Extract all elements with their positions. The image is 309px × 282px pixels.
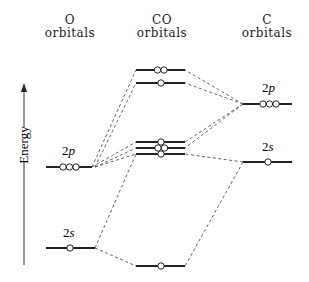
energy-axis-label: Energy <box>16 126 31 164</box>
o-2s-label: 2s <box>63 225 75 240</box>
c-2p-level: 2p <box>243 80 292 107</box>
co-cluster-levels <box>136 139 185 157</box>
co-top-level <box>136 67 185 73</box>
correlation-lines <box>92 70 243 266</box>
c-2s-label: 2s <box>262 139 274 154</box>
o-2p-label: 2p <box>62 143 76 158</box>
energy-axis: Energy <box>16 83 31 265</box>
c-2p-label: 2p <box>262 80 276 95</box>
co-second-level <box>136 80 185 86</box>
o-2p-level: 2p <box>46 143 92 170</box>
o-2s-level: 2s <box>46 225 95 251</box>
c-2s-level: 2s <box>243 139 292 165</box>
co-bottom-level <box>136 263 185 269</box>
mo-diagram: Energy 2p 2s <box>0 0 309 282</box>
arrow-up-icon <box>21 83 27 92</box>
